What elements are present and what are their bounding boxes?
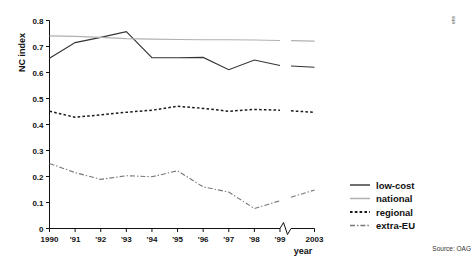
y-tick-label: 0 bbox=[39, 225, 44, 234]
x-tick-label: '91 bbox=[70, 235, 81, 244]
x-tick-label: 1990 bbox=[41, 235, 59, 244]
x-axis-break-zigzag bbox=[280, 223, 291, 235]
series-extra-EU bbox=[50, 164, 315, 209]
legend-label-regional: regional bbox=[376, 207, 413, 218]
series-path-pre-break bbox=[50, 36, 281, 41]
chart-series-layer bbox=[50, 32, 315, 209]
y-tick-label: 0.4 bbox=[32, 121, 44, 130]
y-tick-label: 0.5 bbox=[32, 95, 44, 104]
x-tick-label: '92 bbox=[95, 235, 106, 244]
series-regional bbox=[50, 106, 315, 117]
legend-item-extra-EU[interactable]: extra-EU bbox=[350, 220, 415, 231]
y-tick-label: 0.6 bbox=[32, 69, 44, 78]
series-path-post-break bbox=[291, 190, 315, 197]
series-path-pre-break bbox=[50, 32, 281, 70]
y-axis-ticks: 00.10.20.30.40.50.60.70.8 bbox=[32, 17, 49, 234]
x-axis-title: year bbox=[294, 246, 313, 256]
x-tick-label: '98 bbox=[249, 235, 260, 244]
legend-label-extra-EU: extra-EU bbox=[376, 220, 415, 231]
x-tick-label: '94 bbox=[147, 235, 158, 244]
y-tick-label: 0.1 bbox=[32, 199, 44, 208]
x-tick-label: '95 bbox=[172, 235, 183, 244]
series-path-pre-break bbox=[50, 164, 281, 209]
corner-watermark: ens bbox=[450, 15, 456, 24]
series-path-pre-break bbox=[50, 106, 281, 117]
x-tick-label: '93 bbox=[121, 235, 132, 244]
y-tick-label: 0.7 bbox=[32, 43, 44, 52]
y-axis-title: NC index bbox=[17, 33, 27, 72]
legend-item-low-cost[interactable]: low-cost bbox=[350, 180, 415, 191]
x-tick-label: '96 bbox=[198, 235, 209, 244]
legend-item-regional[interactable]: regional bbox=[350, 207, 413, 218]
x-tick-label: '97 bbox=[223, 235, 234, 244]
legend-item-national[interactable]: national bbox=[350, 193, 412, 204]
x-axis-ticks: 1990'91'92'93'94'95'96'97'98'992003 bbox=[41, 229, 324, 244]
source-note: Source: OAG bbox=[432, 245, 471, 252]
nc-index-line-chart: 00.10.20.30.40.50.60.70.8 1990'91'92'93'… bbox=[0, 0, 476, 269]
y-tick-label: 0.8 bbox=[32, 17, 44, 26]
series-path-post-break bbox=[291, 111, 315, 112]
legend-label-national: national bbox=[376, 193, 412, 204]
chart-legend: low-costnationalregionalextra-EU bbox=[350, 180, 415, 232]
series-path-post-break bbox=[291, 66, 315, 67]
legend-label-low-cost: low-cost bbox=[376, 180, 415, 191]
y-tick-label: 0.3 bbox=[32, 147, 44, 156]
x-tick-label: '99 bbox=[275, 235, 286, 244]
y-tick-label: 0.2 bbox=[32, 173, 44, 182]
x-tick-label: 2003 bbox=[306, 235, 324, 244]
